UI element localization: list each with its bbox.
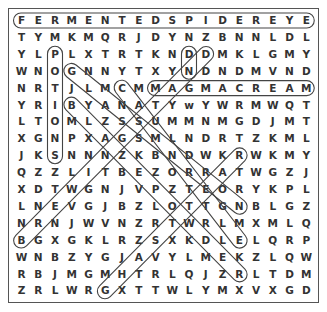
found-word-outline: [148, 81, 315, 96]
found-word-outline: [61, 60, 250, 217]
found-word-outline: [48, 46, 63, 163]
word-search-board: FERMENTEDSPIDEREYETYMKMQRJDYNZBNNLDLYLPL…: [8, 8, 319, 303]
found-word-outline: [182, 46, 197, 79]
found-word-outline: [14, 13, 315, 28]
found-word-highlights: [9, 9, 320, 304]
found-word-outline: [61, 94, 250, 285]
found-word-outline: [94, 145, 250, 302]
